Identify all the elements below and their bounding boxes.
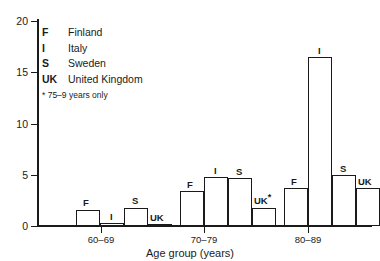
footnote-asterisk-icon: * bbox=[268, 192, 272, 202]
y-axis-label-15: 15 bbox=[16, 67, 28, 77]
legend-footnote: * 75–9 years only bbox=[42, 90, 192, 100]
bar-label-80-89-italy: I bbox=[318, 46, 321, 56]
bar-label-70-79-italy: I bbox=[214, 166, 217, 176]
x-axis-tick-group-3 bbox=[308, 227, 309, 233]
bar-label-70-79-finland: F bbox=[187, 180, 193, 190]
legend: F Finland I Italy S Sweden UK United Kin… bbox=[42, 26, 192, 100]
x-axis-group-label-80-89: 80–89 bbox=[278, 234, 338, 245]
legend-item-sweden: S Sweden bbox=[42, 57, 192, 69]
y-axis-label-20: 20 bbox=[16, 16, 28, 26]
x-axis-tick-group-1 bbox=[101, 227, 102, 233]
legend-item-united-kingdom: UK United Kingdom bbox=[42, 73, 192, 85]
bar-label-70-79-sweden: S bbox=[236, 167, 242, 177]
bar-label-80-89-united-kingdom: UK bbox=[358, 177, 372, 187]
bar-70-79-finland bbox=[180, 191, 204, 226]
x-axis-tick-group-2 bbox=[204, 227, 205, 233]
bar-label-60-69-sweden: S bbox=[132, 196, 138, 206]
legend-key-finland: F bbox=[42, 26, 68, 38]
y-axis-tick-20 bbox=[31, 21, 37, 22]
legend-name-sweden: Sweden bbox=[68, 57, 106, 69]
bar-chart: 0 5 10 15 20 60–69 70–79 80–89 Age group… bbox=[0, 0, 380, 261]
legend-item-italy: I Italy bbox=[42, 42, 192, 54]
legend-key-sweden: S bbox=[42, 57, 68, 69]
y-axis-tick-5 bbox=[31, 175, 37, 176]
bar-70-79-italy bbox=[204, 177, 228, 226]
y-axis-label-10: 10 bbox=[16, 119, 28, 129]
legend-key-italy: I bbox=[42, 42, 68, 54]
y-axis-tick-10 bbox=[31, 124, 37, 125]
legend-name-finland: Finland bbox=[68, 26, 102, 38]
legend-key-united-kingdom: UK bbox=[42, 73, 68, 85]
bar-label-60-69-italy: I bbox=[110, 212, 113, 222]
bar-80-89-finland bbox=[284, 188, 308, 226]
x-axis-group-label-60-69: 60–69 bbox=[71, 234, 131, 245]
x-axis-title: Age group (years) bbox=[0, 247, 380, 259]
legend-item-finland: F Finland bbox=[42, 26, 192, 38]
bar-60-69-finland bbox=[76, 210, 100, 226]
bar-80-89-united-kingdom bbox=[356, 188, 380, 226]
bar-60-69-united-kingdom bbox=[148, 224, 172, 226]
bar-70-79-united-kingdom bbox=[252, 208, 276, 227]
legend-name-italy: Italy bbox=[68, 42, 87, 54]
bar-label-80-89-sweden: S bbox=[340, 164, 346, 174]
bar-80-89-sweden bbox=[332, 175, 356, 226]
x-axis-group-label-70-79: 70–79 bbox=[174, 234, 234, 245]
bar-label-70-79-united-kingdom: UK* bbox=[254, 192, 271, 206]
bar-60-69-italy bbox=[100, 223, 124, 226]
y-axis-label-5: 5 bbox=[22, 170, 28, 180]
bar-label-60-69-finland: F bbox=[83, 198, 89, 208]
y-axis-label-0: 0 bbox=[22, 221, 28, 231]
bar-80-89-italy bbox=[308, 57, 332, 226]
bar-60-69-sweden bbox=[124, 208, 148, 227]
bar-label-80-89-finland: F bbox=[291, 177, 297, 187]
legend-name-united-kingdom: United Kingdom bbox=[68, 73, 143, 85]
y-axis-tick-15 bbox=[31, 72, 37, 73]
bar-70-79-sweden bbox=[228, 178, 252, 226]
bar-label-60-69-united-kingdom: UK bbox=[150, 213, 164, 223]
